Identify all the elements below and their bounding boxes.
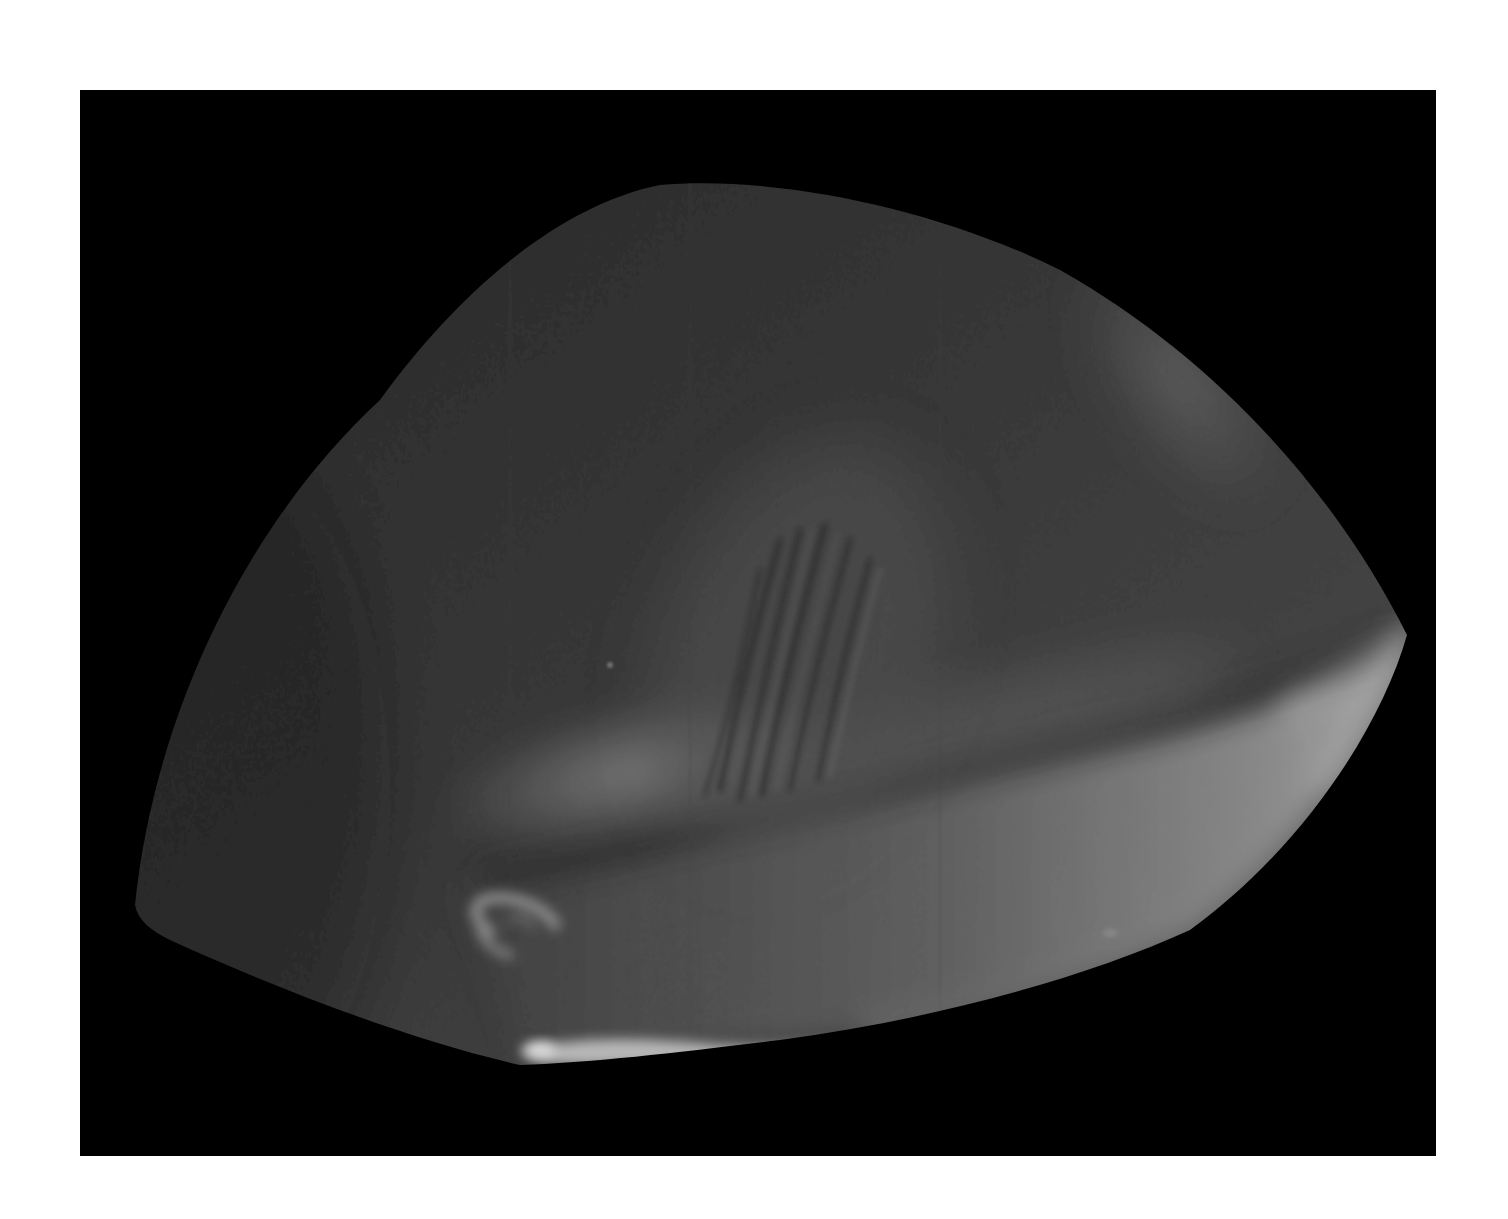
- page: [0, 0, 1508, 1219]
- dome-object-photo: [80, 90, 1436, 1156]
- photo-frame: [80, 90, 1436, 1156]
